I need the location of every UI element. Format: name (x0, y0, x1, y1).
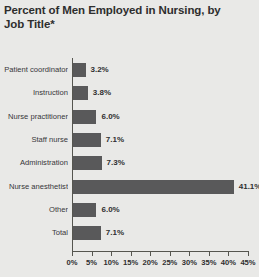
bar-category-label: Administration (0, 156, 68, 170)
x-tick-mark (209, 252, 210, 256)
x-tick-mark (72, 252, 73, 256)
bar (73, 133, 101, 147)
x-tick-label: 0% (67, 257, 78, 268)
x-tick-mark (189, 252, 190, 256)
bar-row: Administration7.3% (0, 156, 259, 170)
bar-category-label: Staff nurse (0, 133, 68, 147)
x-tick-label: 15% (123, 257, 138, 268)
bar-value-label: 3.8% (93, 86, 111, 100)
bar (73, 110, 96, 124)
bar (73, 203, 96, 217)
bar (73, 86, 88, 100)
chart-title: Percent of Men Employed in Nursing, by J… (4, 3, 254, 31)
bar-value-label: 7.1% (106, 133, 124, 147)
bar-chart: Percent of Men Employed in Nursing, by J… (0, 0, 259, 277)
bar-value-label: 3.2% (91, 63, 109, 77)
bar-category-label: Patient coordinator (0, 63, 68, 77)
x-tick-label: 40% (221, 257, 236, 268)
x-tick-mark (131, 252, 132, 256)
bar-category-label: Other (0, 203, 68, 217)
x-tick-mark (150, 252, 151, 256)
bar (73, 226, 101, 240)
bar-value-label: 6.0% (101, 203, 119, 217)
x-axis-line (72, 251, 249, 252)
bar-category-label: Total (0, 226, 68, 240)
bar-value-label: 6.0% (101, 110, 119, 124)
bar-category-label: Instruction (0, 86, 68, 100)
chart-title-line-1: Percent of Men Employed in Nursing, by (4, 3, 254, 17)
x-tick-label: 20% (143, 257, 158, 268)
x-tick-label: 10% (104, 257, 119, 268)
x-tick-mark (111, 252, 112, 256)
bar-value-label: 7.3% (107, 156, 125, 170)
chart-title-line-2: Job Title* (4, 17, 254, 31)
bar-category-label: Nurse anesthetist (0, 180, 68, 194)
plot-area: Patient coordinator3.2%Instruction3.8%Nu… (0, 58, 259, 254)
bar-value-label: 7.1% (106, 226, 124, 240)
bar-row: Nurse practitioner6.0% (0, 110, 259, 124)
bar-row: Other6.0% (0, 203, 259, 217)
x-tick-label: 35% (201, 257, 216, 268)
x-tick-label: 25% (162, 257, 177, 268)
bar-row: Nurse anesthetist41.1% (0, 180, 259, 194)
x-tick-label: 30% (182, 257, 197, 268)
bar (73, 156, 102, 170)
bar-row: Staff nurse7.1% (0, 133, 259, 147)
x-tick-mark (92, 252, 93, 256)
bar-category-label: Nurse practitioner (0, 110, 68, 124)
x-tick-mark (248, 252, 249, 256)
x-tick-mark (170, 252, 171, 256)
bar-row: Total7.1% (0, 226, 259, 240)
bar (73, 180, 234, 194)
bar-row: Patient coordinator3.2% (0, 63, 259, 77)
bar-row: Instruction3.8% (0, 86, 259, 100)
x-tick-label: 5% (86, 257, 97, 268)
x-tick-label: 45% (240, 257, 255, 268)
bar-value-label: 41.1% (239, 180, 259, 194)
bar (73, 63, 86, 77)
x-tick-mark (228, 252, 229, 256)
